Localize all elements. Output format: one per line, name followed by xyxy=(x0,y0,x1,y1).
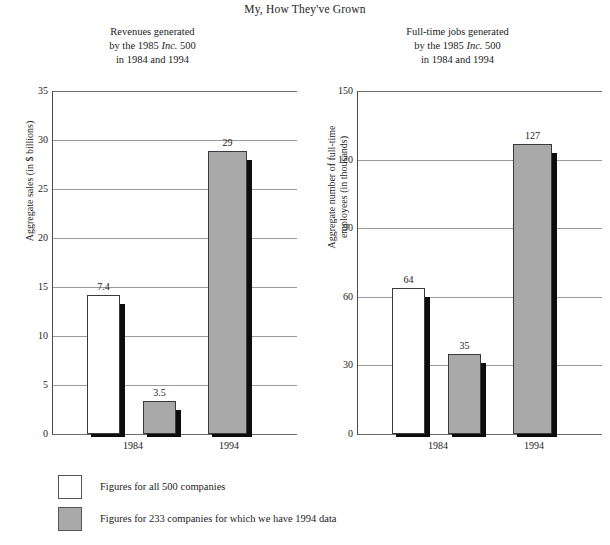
bar-value-label: 3.5 xyxy=(143,387,176,398)
chart-title-line3: in 1984 and 1994 xyxy=(116,54,189,65)
chart-title-line1: Revenues generated xyxy=(110,26,194,37)
bar-face xyxy=(513,144,552,434)
bar-1994-233[interactable]: 127 xyxy=(513,144,557,434)
chart-title-line2a: by the 1985 xyxy=(109,40,161,51)
legend-swatch-gray xyxy=(58,507,82,531)
bar-1984-233[interactable]: 3.5 xyxy=(143,401,181,434)
gridline-90 xyxy=(358,228,602,229)
bar-value-label: 29 xyxy=(208,137,247,148)
y-tick-label: 20 xyxy=(38,233,48,243)
bar-face xyxy=(87,295,120,434)
bar-shadow xyxy=(481,363,486,434)
bar-shadow xyxy=(176,410,181,434)
y-tick-label: 0 xyxy=(43,429,48,439)
legend-swatch-white xyxy=(58,475,82,499)
bar-value-label: 35 xyxy=(448,340,481,351)
bar-shadow xyxy=(247,160,252,434)
plot-area-revenues: 35 30 25 20 15 10 5 0 7.4 3.5 xyxy=(52,91,297,435)
chart-title-revenues: Revenues generated by the 1985 Inc. 500 … xyxy=(0,25,305,67)
bar-1984-all500[interactable]: 7.4 xyxy=(87,295,125,434)
bar-value-label: 127 xyxy=(513,130,552,141)
legend-label: Figures for all 500 companies xyxy=(100,481,225,493)
bar-shadow-foot xyxy=(452,434,486,437)
y-tick-label: 30 xyxy=(343,360,353,370)
bar-shadow-foot xyxy=(517,434,557,437)
bar-value-label: 7.4 xyxy=(87,281,120,292)
bar-shadow xyxy=(425,297,430,434)
gridline-120 xyxy=(358,160,602,161)
chart-title-jobs: Full-time jobs generated by the 1985 Inc… xyxy=(305,25,610,67)
chart-title-line2a: by the 1985 xyxy=(414,40,466,51)
gridline-35 xyxy=(53,91,297,92)
y-tick-label: 5 xyxy=(43,380,48,390)
bar-face xyxy=(448,354,481,434)
bar-face xyxy=(208,151,247,434)
bar-shadow xyxy=(552,153,557,434)
bar-1984-233[interactable]: 35 xyxy=(448,354,486,434)
bar-face xyxy=(392,288,425,434)
y-tick-label: 30 xyxy=(38,135,48,145)
bar-1994-233[interactable]: 29 xyxy=(208,151,252,434)
y-tick-label: 0 xyxy=(348,429,353,439)
chart-title-line2b: 500 xyxy=(482,40,500,51)
x-tick-label-1994: 1994 xyxy=(524,440,544,451)
gridline-25 xyxy=(53,189,297,190)
y-tick-label: 120 xyxy=(338,155,353,165)
figure-canvas: My, How They've Grown Revenues generated… xyxy=(0,0,610,545)
gridline-150 xyxy=(358,91,602,92)
chart-title-inc: Inc. xyxy=(161,40,177,51)
legend: Figures for all 500 companies Figures fo… xyxy=(58,473,336,537)
chart-title-line2b: 500 xyxy=(177,40,195,51)
bar-value-label: 64 xyxy=(392,274,425,285)
y-tick-label: 90 xyxy=(343,223,353,233)
y-tick-label: 150 xyxy=(338,86,353,96)
x-tick-label-1994: 1994 xyxy=(219,440,239,451)
chart-panel-jobs: Full-time jobs generated by the 1985 Inc… xyxy=(305,0,610,460)
y-axis-title-revenues: Aggregate sales (in $ billions) xyxy=(24,101,36,261)
gridline-30 xyxy=(53,140,297,141)
bar-shadow-foot xyxy=(147,434,181,437)
legend-label: Figures for 233 companies for which we h… xyxy=(100,513,336,525)
bar-shadow-foot xyxy=(212,434,252,437)
y-tick-label: 10 xyxy=(38,331,48,341)
gridline-20 xyxy=(53,238,297,239)
x-tick-label-1984: 1984 xyxy=(123,440,143,451)
y-axis-title-line1: Aggregate number of full-time xyxy=(326,126,337,249)
legend-item-all-500[interactable]: Figures for all 500 companies xyxy=(58,473,336,501)
bar-face xyxy=(143,401,176,434)
chart-title-line1: Full-time jobs generated xyxy=(406,26,509,37)
chart-panel-revenues: Revenues generated by the 1985 Inc. 500 … xyxy=(0,0,305,460)
bar-shadow xyxy=(120,304,125,434)
bar-shadow-foot xyxy=(396,434,430,437)
x-tick-label-1984: 1984 xyxy=(428,440,448,451)
y-axis-title-jobs: Aggregate number of full-time employees … xyxy=(326,102,350,272)
y-tick-label: 15 xyxy=(38,282,48,292)
legend-item-233[interactable]: Figures for 233 companies for which we h… xyxy=(58,505,336,533)
y-tick-label: 60 xyxy=(343,292,353,302)
bar-shadow-foot xyxy=(91,434,125,437)
plot-area-jobs: 150 120 90 60 30 0 64 35 xyxy=(357,91,602,435)
y-tick-label: 25 xyxy=(38,184,48,194)
chart-title-inc: Inc. xyxy=(466,40,482,51)
bar-1984-all500[interactable]: 64 xyxy=(392,288,430,434)
y-tick-label: 35 xyxy=(38,86,48,96)
chart-title-line3: in 1984 and 1994 xyxy=(421,54,494,65)
